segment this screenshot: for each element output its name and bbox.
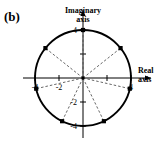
imaginary-axis-arrowhead bbox=[80, 10, 85, 16]
x-tick-label: -2 bbox=[56, 83, 63, 92]
x-tick-label: -4 bbox=[32, 83, 39, 92]
root-point bbox=[118, 46, 122, 50]
radius-line bbox=[83, 78, 104, 121]
y-tick-label: -4 bbox=[70, 122, 77, 131]
root-point bbox=[81, 28, 85, 32]
root-point bbox=[60, 119, 64, 123]
axes-group bbox=[23, 10, 151, 138]
y-tick-label: -2 bbox=[70, 98, 77, 107]
real-axis-arrowhead bbox=[145, 75, 151, 80]
plot-canvas: -4-24-4-24 bbox=[0, 0, 166, 148]
y-tick-label: 4 bbox=[73, 26, 77, 35]
complex-plane-figure: (b) Imaginary axis Real axis -4-24-4-24 bbox=[0, 0, 166, 148]
radius-line bbox=[45, 48, 83, 78]
radius-line bbox=[83, 78, 130, 89]
x-tick-label: 4 bbox=[129, 83, 133, 92]
origin-dot bbox=[81, 76, 84, 79]
root-point bbox=[43, 46, 47, 50]
root-point bbox=[102, 119, 106, 123]
radius-line bbox=[83, 48, 121, 78]
